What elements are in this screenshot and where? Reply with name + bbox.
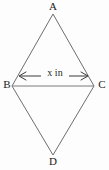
vertex-label-c: C [95,79,109,90]
dimension-label-x-in: x in [34,68,76,78]
rhombus-figure [0,0,109,170]
vertex-label-d: D [43,156,63,167]
rhombus-outline [12,14,94,155]
vertex-label-a: A [43,1,63,12]
vertex-label-b: B [0,79,14,90]
geometry-diagram-canvas: A B C D x in [0,0,109,170]
